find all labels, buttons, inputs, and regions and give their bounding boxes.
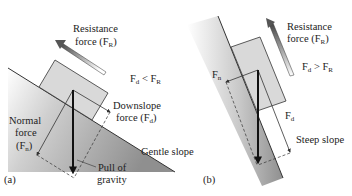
comparison-a: Fd < FR	[130, 73, 161, 86]
svg-text:gravity: gravity	[97, 174, 127, 185]
panel-b: Resistance force (FR) Fd > FR Fn Fd Stee…	[187, 16, 344, 186]
resistance-label-a: Resistance	[73, 23, 118, 34]
gravity-label: Pull of	[98, 162, 127, 173]
comparison-b: Fd > FR	[302, 61, 333, 74]
panel-b-label: (b)	[203, 174, 216, 186]
steep-slope-label: Steep slope	[296, 134, 344, 145]
panel-a: Resistance force (FR) Fd < FR Downslope …	[4, 23, 194, 186]
svg-text:force (FR): force (FR)	[75, 36, 117, 49]
resistance-label-b: Resistance	[287, 21, 332, 32]
fd-label-b: Fd	[285, 110, 295, 123]
gentle-slope-label: Gentle slope	[141, 146, 194, 157]
slope-force-diagram: Resistance force (FR) Fd < FR Downslope …	[0, 0, 352, 196]
svg-text:force: force	[15, 127, 37, 138]
svg-text:force (FR): force (FR)	[287, 33, 329, 46]
panel-a-label: (a)	[4, 174, 16, 186]
normal-force-label: Normal	[9, 115, 41, 126]
downslope-label: Downslope	[113, 100, 161, 111]
svg-text:force (Fd): force (Fd)	[116, 112, 157, 125]
